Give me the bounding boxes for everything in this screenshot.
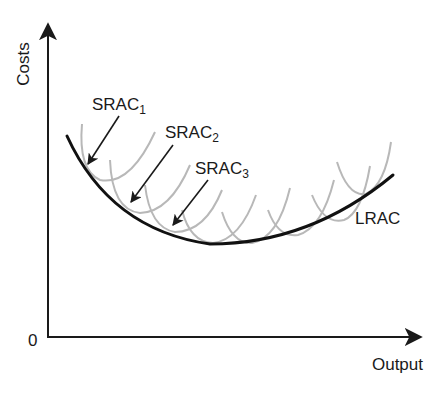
srac1-pointer-arrow [88, 116, 119, 164]
srac2-label-base: SRAC [165, 123, 212, 142]
lrac-srac-diagram: Costs 0 Output LRAC SRAC1 SRAC2 SRAC3 [0, 0, 447, 395]
srac-curves [81, 124, 391, 243]
y-axis-label: Costs [14, 42, 33, 85]
srac-curve-4 [182, 195, 256, 243]
srac1-label: SRAC1 [92, 95, 146, 117]
srac3-label: SRAC3 [195, 159, 249, 181]
srac2-label: SRAC2 [165, 123, 219, 145]
srac2-pointer-arrow [131, 145, 173, 202]
origin-label: 0 [28, 331, 37, 350]
srac-curve-8 [337, 142, 391, 194]
srac2-label-sub: 2 [212, 131, 219, 145]
x-axis-label: Output [372, 355, 423, 374]
srac1-label-sub: 1 [139, 103, 146, 117]
srac3-label-sub: 3 [242, 167, 249, 181]
srac-curve-1 [81, 124, 155, 181]
srac3-label-base: SRAC [195, 159, 242, 178]
lrac-label: LRAC [355, 209, 400, 228]
srac1-label-base: SRAC [92, 95, 139, 114]
